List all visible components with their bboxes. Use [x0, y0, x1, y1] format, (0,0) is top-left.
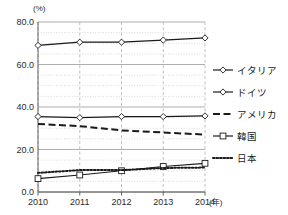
- series-marker-イタリア: [202, 35, 208, 41]
- series-marker-ドイツ: [202, 113, 208, 119]
- series-marker-ドイツ: [77, 115, 83, 121]
- series-marker-ドイツ: [35, 113, 41, 119]
- y-axis-tick-label: 0.0: [21, 187, 34, 197]
- x-axis-tick-label: 2013: [153, 197, 173, 207]
- series-marker-イタリア: [77, 39, 83, 45]
- series-marker-韓国: [77, 172, 83, 178]
- series-marker-韓国: [35, 176, 41, 182]
- y-axis-unit-label: (%): [33, 4, 46, 13]
- y-axis-tick-label: 80.0: [16, 17, 34, 27]
- legend-marker-韓国: [220, 133, 226, 139]
- line-chart: 0.020.040.060.080.0(%)201020112012201320…: [0, 0, 288, 215]
- series-marker-イタリア: [160, 37, 166, 43]
- y-axis-tick-label: 40.0: [16, 102, 34, 112]
- y-axis-tick-label: 20.0: [16, 145, 34, 155]
- series-marker-ドイツ: [118, 113, 124, 119]
- chart-canvas: 0.020.040.060.080.0(%)201020112012201320…: [0, 0, 288, 215]
- legend-marker-イタリア: [220, 67, 226, 73]
- x-axis-tick-label: 2010: [28, 197, 48, 207]
- x-axis-unit-label: (年): [209, 197, 223, 207]
- series-marker-イタリア: [35, 42, 41, 48]
- legend-label-イタリア[interactable]: イタリア: [237, 65, 277, 76]
- y-axis-tick-label: 60.0: [16, 60, 34, 70]
- x-axis-tick-label: 2011: [70, 197, 89, 207]
- legend-marker-ドイツ: [220, 89, 226, 95]
- x-axis-tick-label: 2012: [111, 197, 131, 207]
- series-marker-韓国: [202, 160, 208, 166]
- series-marker-イタリア: [118, 39, 124, 45]
- legend-label-ドイツ[interactable]: ドイツ: [237, 87, 267, 98]
- legend-label-韓国[interactable]: 韓国: [237, 131, 257, 142]
- legend-label-日本[interactable]: 日本: [237, 153, 257, 164]
- series-marker-ドイツ: [160, 113, 166, 119]
- legend-label-アメリカ[interactable]: アメリカ: [237, 109, 277, 120]
